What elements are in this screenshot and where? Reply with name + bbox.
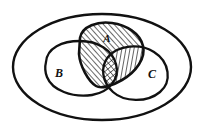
set-a-label: A xyxy=(102,32,110,44)
venn-diagram-canvas: A B C xyxy=(0,0,204,133)
venn-diagram-figure: A B C xyxy=(0,0,204,133)
set-b-label: B xyxy=(54,66,63,80)
set-c-label: C xyxy=(148,67,157,81)
